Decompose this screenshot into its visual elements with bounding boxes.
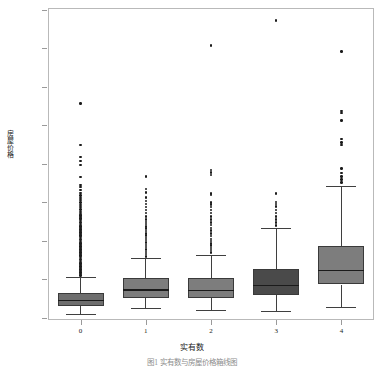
outlier-point bbox=[79, 197, 81, 199]
outlier-point bbox=[145, 227, 147, 229]
y-tick-mark bbox=[42, 202, 47, 203]
y-tick-mark bbox=[42, 48, 47, 49]
figure-caption: 图1 实有数与房屋价格箱线图 bbox=[0, 356, 384, 367]
box-rect bbox=[318, 246, 364, 285]
outlier-point bbox=[79, 102, 81, 104]
outlier-point bbox=[145, 232, 147, 234]
x-tick-label: 1 bbox=[136, 327, 156, 335]
outlier-point bbox=[145, 251, 147, 253]
outlier-point bbox=[210, 171, 212, 173]
y-tick-mark bbox=[42, 164, 47, 165]
outlier-point bbox=[145, 237, 147, 239]
outlier-point bbox=[79, 211, 81, 213]
outlier-point bbox=[145, 255, 147, 257]
y-axis-title: 房屋价格 bbox=[0, 130, 14, 158]
outlier-point bbox=[145, 215, 147, 217]
y-tick-mark bbox=[42, 10, 47, 11]
outlier-point bbox=[145, 225, 147, 227]
outlier-point bbox=[145, 221, 147, 223]
outlier-point bbox=[340, 119, 342, 121]
x-tick-mark bbox=[146, 320, 147, 325]
outlier-point bbox=[210, 242, 212, 244]
cap-lower bbox=[66, 314, 96, 315]
outlier-point bbox=[340, 178, 342, 180]
outlier-point bbox=[340, 175, 342, 177]
outlier-point bbox=[340, 181, 342, 183]
x-tick-mark bbox=[81, 320, 82, 325]
whisker-upper bbox=[211, 255, 212, 278]
outlier-point bbox=[210, 232, 212, 234]
outlier-point bbox=[210, 221, 212, 223]
outlier-point bbox=[340, 141, 342, 143]
outlier-point bbox=[79, 192, 81, 194]
outlier-point bbox=[79, 194, 81, 196]
outlier-point bbox=[210, 44, 212, 46]
whisker-upper bbox=[276, 228, 277, 269]
median-line bbox=[253, 285, 299, 287]
outlier-point bbox=[210, 201, 212, 203]
outlier-point bbox=[210, 238, 212, 240]
outlier-point bbox=[79, 204, 81, 206]
y-tick-mark bbox=[42, 125, 47, 126]
x-tick-label: 4 bbox=[331, 327, 351, 335]
box-rect bbox=[188, 278, 234, 298]
outlier-point bbox=[145, 175, 147, 177]
cap-upper bbox=[326, 186, 356, 187]
whisker-upper bbox=[341, 186, 342, 245]
cap-lower bbox=[196, 310, 226, 311]
whisker-lower bbox=[276, 295, 277, 310]
median-line bbox=[188, 290, 234, 292]
cap-lower bbox=[261, 311, 291, 312]
cap-upper bbox=[131, 258, 161, 259]
cap-lower bbox=[326, 307, 356, 308]
y-tick-mark bbox=[42, 279, 47, 280]
outlier-point bbox=[210, 251, 212, 253]
outlier-point bbox=[210, 229, 212, 231]
cap-upper bbox=[261, 228, 291, 229]
whisker-lower bbox=[341, 285, 342, 307]
outlier-point bbox=[210, 192, 212, 194]
box-rect bbox=[253, 269, 299, 296]
y-tick-mark bbox=[42, 318, 47, 319]
outlier-point bbox=[210, 215, 212, 217]
outlier-point bbox=[340, 138, 342, 140]
outlier-point bbox=[79, 164, 81, 166]
x-tick-label: 3 bbox=[266, 327, 286, 335]
outlier-point bbox=[145, 244, 147, 246]
x-tick-label: 0 bbox=[71, 327, 91, 335]
median-line bbox=[318, 270, 364, 272]
x-tick-mark bbox=[341, 320, 342, 325]
cap-lower bbox=[131, 308, 161, 309]
outlier-point bbox=[340, 144, 342, 146]
outlier-point bbox=[145, 196, 147, 198]
outlier-point bbox=[79, 160, 81, 162]
x-tick-mark bbox=[276, 320, 277, 325]
box-rect bbox=[123, 278, 169, 298]
median-line bbox=[123, 289, 169, 291]
outlier-point bbox=[340, 50, 342, 52]
outlier-point bbox=[145, 241, 147, 243]
outlier-point bbox=[210, 244, 212, 246]
x-axis-title: 实有数 bbox=[0, 341, 384, 352]
outlier-point bbox=[340, 167, 342, 169]
outlier-point bbox=[145, 218, 147, 220]
whisker-upper bbox=[80, 277, 81, 293]
x-tick-mark bbox=[211, 320, 212, 325]
median-line bbox=[58, 300, 104, 302]
outlier-point bbox=[210, 218, 212, 220]
cap-upper bbox=[66, 277, 96, 278]
outlier-point bbox=[79, 208, 81, 210]
outlier-point bbox=[79, 144, 81, 146]
outlier-point bbox=[340, 110, 342, 112]
outlier-point bbox=[145, 234, 147, 236]
outlier-point bbox=[79, 201, 81, 203]
whisker-lower bbox=[211, 298, 212, 310]
y-tick-mark bbox=[42, 241, 47, 242]
whisker-lower bbox=[80, 306, 81, 314]
cap-upper bbox=[196, 255, 226, 256]
outlier-point bbox=[145, 191, 147, 193]
outlier-point bbox=[79, 213, 81, 215]
whisker-upper bbox=[145, 258, 146, 278]
outlier-point bbox=[145, 248, 147, 250]
